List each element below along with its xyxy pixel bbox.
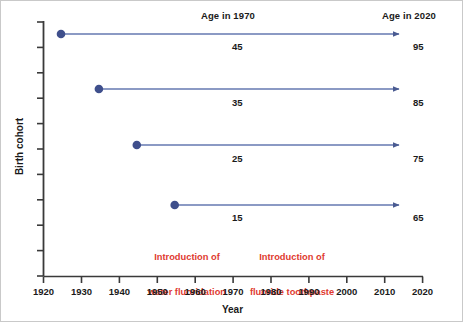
y-tick-marks: [37, 22, 44, 276]
x-axis-title: Year: [1, 304, 463, 316]
age-2020-value-cohort-1935: 85: [413, 98, 424, 109]
x-tick-label-2010: 2010: [365, 287, 405, 298]
header-age-in-1970: Age in 1970: [201, 11, 255, 22]
x-tick-label-2020: 2020: [403, 287, 443, 298]
cohort-marker-1925: [57, 30, 66, 39]
cohort-marker-1935: [95, 85, 104, 94]
age-2020-value-cohort-1945: 75: [413, 154, 424, 165]
age-1970-value-cohort-1925: 45: [232, 42, 243, 53]
annotation-fluoride-toothpaste-line1: Introduction of: [226, 252, 358, 264]
x-tick-label-2000: 2000: [327, 287, 367, 298]
x-tick-label-1960: 1960: [175, 287, 215, 298]
age-1970-value-cohort-1955: 15: [232, 213, 243, 224]
age-2020-value-cohort-1925: 95: [413, 42, 424, 53]
cohort-row-1955: [170, 201, 399, 210]
cohort-marker-1955: [170, 201, 179, 210]
x-tick-label-1970: 1970: [213, 287, 253, 298]
cohort-row-1935: [95, 85, 399, 94]
age-1970-value-cohort-1935: 35: [232, 98, 243, 109]
cohort-marker-1945: [133, 141, 142, 150]
x-tick-label-1980: 1980: [251, 287, 291, 298]
age-1970-value-cohort-1945: 25: [232, 154, 243, 165]
cohort-row-1945: [133, 141, 400, 150]
cohort-row-1925: [57, 30, 399, 39]
x-tick-label-1990: 1990: [289, 287, 329, 298]
x-tick-label-1940: 1940: [99, 287, 139, 298]
x-tick-label-1920: 1920: [24, 287, 64, 298]
chart-figure: Age in 1970 Age in 2020 45 35 25 15 95 8…: [0, 0, 463, 322]
y-axis-title: Birth cohort: [14, 107, 25, 187]
x-tick-label-1950: 1950: [137, 287, 177, 298]
age-2020-value-cohort-1955: 65: [413, 213, 424, 224]
x-tick-label-1930: 1930: [62, 287, 102, 298]
header-age-in-2020: Age in 2020: [382, 11, 436, 22]
